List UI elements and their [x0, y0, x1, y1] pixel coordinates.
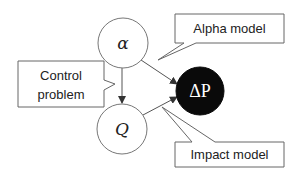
- alpha-model-label: Alpha model: [193, 21, 265, 36]
- impact-model-label: Impact model: [190, 147, 268, 162]
- control-problem-callout: Control problem: [18, 61, 115, 107]
- node-deltap-label: ΔP: [189, 81, 211, 101]
- control-problem-label-line1: Control: [40, 68, 82, 83]
- node-q-label: Q: [115, 119, 129, 139]
- node-q: Q: [97, 104, 147, 154]
- node-deltap: ΔP: [176, 67, 224, 115]
- node-alpha: α: [98, 18, 148, 68]
- control-problem-label-line2: problem: [38, 87, 85, 102]
- impact-model-callout: Impact model: [162, 107, 284, 167]
- alpha-model-callout: Alpha model: [158, 14, 284, 60]
- node-alpha-label: α: [117, 33, 129, 53]
- edge-alpha-to-deltap: [141, 60, 177, 84]
- edge-q-to-deltap: [143, 97, 177, 115]
- influence-diagram: Alpha model Control problem Impact model…: [0, 0, 302, 173]
